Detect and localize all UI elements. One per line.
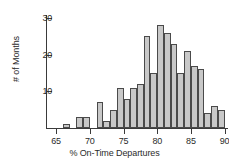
histogram-bar <box>144 36 151 128</box>
histogram-bar <box>124 99 131 128</box>
histogram-bar <box>63 124 70 128</box>
histogram-figure: 102030 # of Months 657075808590 % On-Tim… <box>0 0 229 168</box>
histogram-bar <box>218 110 225 128</box>
histogram-bar <box>164 33 171 128</box>
histogram-bar <box>177 73 184 128</box>
histogram-bar <box>211 106 218 128</box>
histogram-bar <box>117 88 124 128</box>
histogram-bar <box>137 84 144 128</box>
histogram-bar <box>157 25 164 128</box>
histogram-bar <box>110 110 117 128</box>
histogram-bar <box>204 113 211 128</box>
histogram-bar <box>103 121 110 128</box>
histogram-bar <box>97 102 104 128</box>
histogram-bar <box>76 117 83 128</box>
histogram-bar <box>83 117 90 128</box>
histogram-bar <box>150 73 157 128</box>
histogram-bar <box>171 44 178 128</box>
plot-area <box>0 0 229 168</box>
histogram-bar <box>191 66 198 128</box>
histogram-bar <box>198 69 205 128</box>
histogram-bar <box>184 51 191 128</box>
histogram-bar <box>130 88 137 128</box>
